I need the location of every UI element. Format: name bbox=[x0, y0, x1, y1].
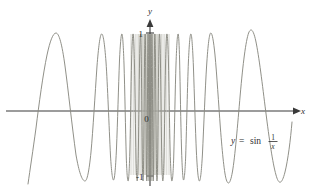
x-axis-arrowhead bbox=[293, 108, 301, 115]
y-axis-arrowhead bbox=[147, 19, 154, 27]
y-axis-label: y bbox=[147, 6, 152, 16]
equation-lhs: y bbox=[230, 136, 236, 146]
y-tick-label-negative-one: -1 bbox=[136, 172, 144, 182]
equation-fraction-denominator: x bbox=[270, 142, 275, 151]
origin-label: 0 bbox=[144, 114, 149, 124]
curve-right-branch bbox=[150, 30, 292, 183]
equation-function-name: sin bbox=[250, 136, 261, 146]
equation-fraction-numerator: 1 bbox=[271, 133, 275, 142]
figure-container: x y 1 -1 0 y = sin 1 x bbox=[0, 0, 310, 196]
sin-one-over-x-plot: x y 1 -1 0 y = sin 1 x bbox=[0, 0, 310, 196]
curve-left-branch bbox=[28, 33, 150, 184]
y-tick-label-one: 1 bbox=[139, 29, 144, 39]
x-axis-label: x bbox=[300, 106, 305, 116]
equation-equals: = bbox=[239, 136, 244, 146]
equation-annotation: y = sin 1 x bbox=[230, 133, 278, 152]
